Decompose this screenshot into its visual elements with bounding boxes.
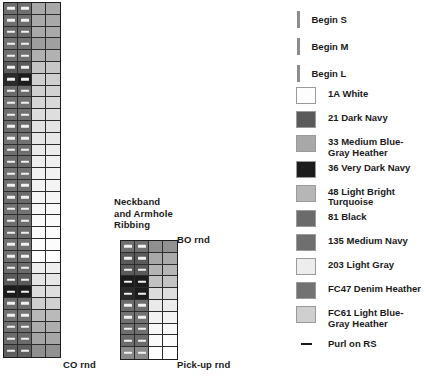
- chart-cell: [32, 86, 46, 98]
- chart-cell-purl: [4, 239, 18, 251]
- chart-cell-purl: [4, 38, 18, 50]
- chart-cell: [46, 263, 60, 275]
- chart-row: [4, 168, 60, 180]
- chart-cell: [149, 335, 163, 347]
- chart-cell: [46, 74, 60, 86]
- chart-cell-purl: [135, 335, 149, 347]
- chart-cell: [32, 298, 46, 310]
- chart-cell-purl: [4, 133, 18, 145]
- chart-row: [4, 345, 60, 357]
- chart-cell: [149, 347, 163, 359]
- chart-row: [4, 15, 60, 27]
- chart-cell: [46, 215, 60, 227]
- purl-dash-icon: [296, 343, 316, 345]
- chart-cell-purl: [18, 27, 32, 39]
- chart-cell-purl: [135, 324, 149, 336]
- chart-row: [4, 38, 60, 50]
- chart-cell: [32, 27, 46, 39]
- color-swatch-label: 21 Dark Navy: [328, 111, 388, 124]
- chart-cell: [46, 27, 60, 39]
- color-swatch-label: 1A White: [328, 87, 368, 100]
- legend-swatch-row-135: 135 Medium Navy: [296, 234, 429, 256]
- chart-cell-purl: [4, 310, 18, 322]
- chart-row: [4, 109, 60, 121]
- chart-cell: [163, 253, 177, 265]
- chart-cell-purl: [18, 109, 32, 121]
- chart-cell-purl: [121, 253, 135, 265]
- color-swatch-label: 81 Black: [328, 210, 367, 223]
- chart-cell: [149, 276, 163, 288]
- chart-cell-purl: [121, 276, 135, 288]
- legend-swatch-row-1a: 1A White: [296, 87, 429, 109]
- chart-cell: [32, 227, 46, 239]
- chart-cell: [32, 239, 46, 251]
- chart-cell-purl: [4, 168, 18, 180]
- chart-cell-purl: [121, 312, 135, 324]
- chart-cell-purl: [4, 109, 18, 121]
- chart-cell-purl: [135, 253, 149, 265]
- chart-row: [4, 263, 60, 275]
- chart-cell: [46, 286, 60, 298]
- chart-row: [4, 310, 60, 322]
- bo-rnd-label: BO rnd: [177, 234, 210, 246]
- chart-row: [121, 253, 177, 265]
- chart-row: [4, 227, 60, 239]
- begin-mark-label: Begin M: [312, 41, 349, 52]
- chart-cell-purl: [121, 324, 135, 336]
- neckband-ribbing-caption: Neckband and Armhole Ribbing: [114, 196, 173, 231]
- chart-cell: [163, 276, 177, 288]
- chart-cell: [163, 288, 177, 300]
- chart-cell-purl: [121, 241, 135, 253]
- chart-row: [4, 192, 60, 204]
- chart-row: [4, 62, 60, 74]
- chart-cell: [149, 265, 163, 277]
- chart-cell-purl: [4, 74, 18, 86]
- chart-row: [121, 335, 177, 347]
- chart-row: [4, 97, 60, 109]
- chart-cell-purl: [18, 204, 32, 216]
- chart-cell-purl: [18, 310, 32, 322]
- chart-cell: [149, 253, 163, 265]
- chart-cell-purl: [18, 121, 32, 133]
- chart-cell: [32, 74, 46, 86]
- chart-cell: [32, 310, 46, 322]
- color-swatch-icon: [296, 87, 316, 104]
- chart-cell: [32, 215, 46, 227]
- co-rnd-label: CO rnd: [63, 359, 96, 371]
- chart-cell: [32, 156, 46, 168]
- color-swatch-list: 1A White21 Dark Navy33 Medium Blue- Gray…: [296, 87, 429, 330]
- chart-cell: [46, 109, 60, 121]
- chart-cell: [149, 300, 163, 312]
- main-body-chart: [3, 2, 61, 358]
- begin-mark-label: Begin L: [312, 68, 347, 79]
- color-swatch-icon: [296, 210, 316, 227]
- begin-tick-icon: [297, 65, 300, 82]
- chart-cell: [46, 251, 60, 263]
- chart-cell-purl: [135, 265, 149, 277]
- chart-cell: [46, 97, 60, 109]
- chart-row: [121, 276, 177, 288]
- purl-key-label: Purl on RS: [328, 337, 377, 350]
- color-swatch-icon: [296, 111, 316, 128]
- chart-cell: [46, 38, 60, 50]
- chart-cell: [46, 15, 60, 27]
- chart-cell-purl: [4, 97, 18, 109]
- chart-cell-purl: [135, 300, 149, 312]
- chart-cell-purl: [4, 15, 18, 27]
- chart-row: [4, 274, 60, 286]
- chart-cell-purl: [4, 145, 18, 157]
- chart-cell-purl: [4, 50, 18, 62]
- begin-mark-s: Begin S: [296, 6, 429, 33]
- chart-cell-purl: [18, 3, 32, 15]
- chart-cell: [46, 192, 60, 204]
- chart-cell-purl: [4, 180, 18, 192]
- chart-cell: [163, 312, 177, 324]
- color-swatch-label: FC61 Light Blue- Gray Heather: [328, 306, 403, 330]
- chart-cell: [46, 145, 60, 157]
- chart-cell: [149, 241, 163, 253]
- chart-cell-purl: [18, 263, 32, 275]
- chart-cell: [32, 322, 46, 334]
- chart-row: [4, 239, 60, 251]
- chart-cell-purl: [18, 133, 32, 145]
- chart-cell: [32, 15, 46, 27]
